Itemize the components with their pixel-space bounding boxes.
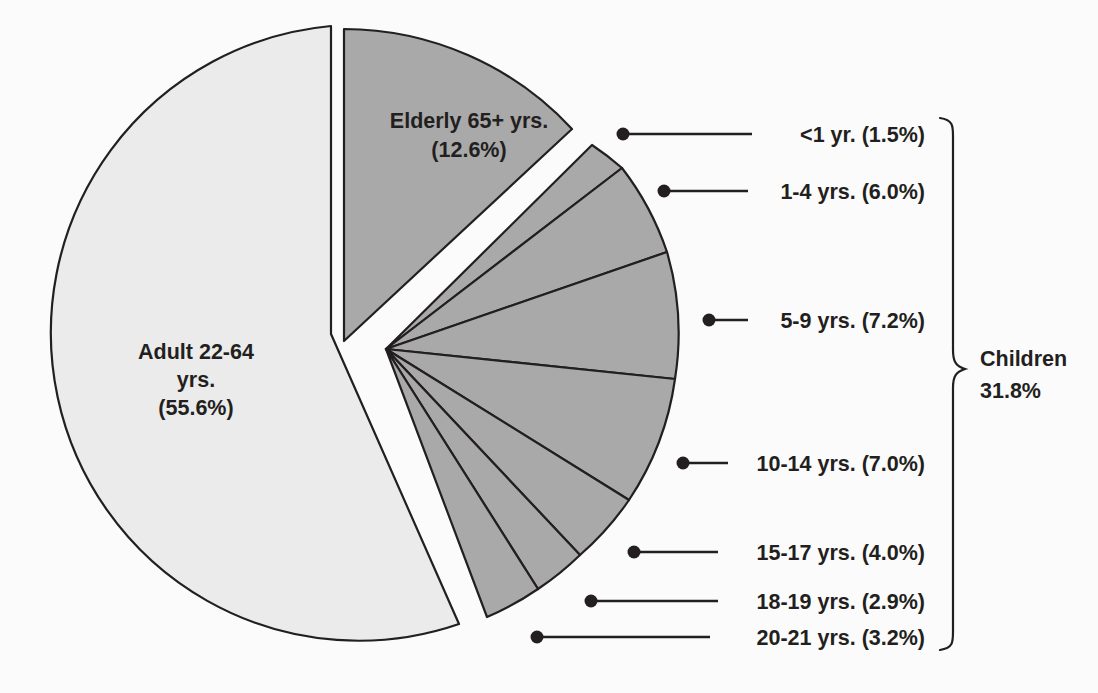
leader-dot-under-1 (617, 128, 630, 141)
callout-18-19[interactable]: 18-19 yrs. (2.9%) (585, 590, 926, 614)
callout-10-14[interactable]: 10-14 yrs. (7.0%) (677, 452, 926, 476)
leader-dot-10-14 (677, 457, 690, 470)
leader-dot-15-17 (628, 546, 641, 559)
callout-label-10-14: 10-14 yrs. (7.0%) (756, 452, 925, 476)
children-group-label-line2: 31.8% (980, 379, 1041, 403)
callout-label-18-19: 18-19 yrs. (2.9%) (756, 590, 925, 614)
leader-dot-5-9 (703, 314, 716, 327)
children-group-label-line1: Children (980, 347, 1067, 371)
slice-label-adult-line3: (55.6%) (158, 396, 233, 420)
slice-label-elderly-line2: (12.6%) (431, 138, 506, 162)
pie-chart-figure: Elderly 65+ yrs. (12.6%) Adult 22-64 yrs… (0, 0, 1098, 693)
callout-20-21[interactable]: 20-21 yrs. (3.2%) (531, 626, 926, 650)
slice-label-elderly-line1: Elderly 65+ yrs. (390, 109, 548, 133)
pie-chart-canvas: Elderly 65+ yrs. (12.6%) Adult 22-64 yrs… (0, 0, 1098, 693)
callout-label-20-21: 20-21 yrs. (3.2%) (756, 626, 925, 650)
callout-label-under-1: <1 yr. (1.5%) (800, 123, 925, 147)
callout-label-1-4: 1-4 yrs. (6.0%) (780, 180, 925, 204)
callout-5-9[interactable]: 5-9 yrs. (7.2%) (703, 309, 926, 333)
callout-label-5-9: 5-9 yrs. (7.2%) (780, 309, 925, 333)
leader-dot-18-19 (585, 595, 598, 608)
callout-under-1[interactable]: <1 yr. (1.5%) (617, 123, 926, 147)
leader-dot-20-21 (531, 631, 544, 644)
leader-dot-1-4 (658, 185, 671, 198)
callout-1-4[interactable]: 1-4 yrs. (6.0%) (658, 180, 926, 204)
slice-label-adult-line2: yrs. (177, 368, 215, 392)
callout-label-15-17: 15-17 yrs. (4.0%) (756, 541, 925, 565)
children-group-brace (940, 118, 965, 650)
callout-15-17[interactable]: 15-17 yrs. (4.0%) (628, 541, 926, 565)
slice-label-adult-line1: Adult 22-64 (138, 340, 254, 364)
